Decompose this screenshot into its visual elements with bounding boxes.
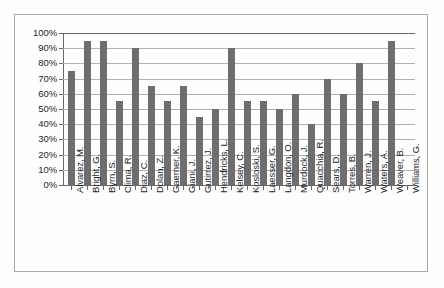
y-axis-label-10: 10%	[15, 165, 57, 175]
y-axis-label-60: 60%	[15, 89, 57, 99]
x-axis-category-label: Clima, R.	[123, 155, 133, 193]
y-axis-label-20: 20%	[15, 150, 57, 160]
x-tick	[407, 186, 408, 190]
x-tick	[279, 186, 280, 190]
x-tick	[215, 186, 216, 190]
x-axis-category-label: Sears, D.	[331, 154, 341, 193]
x-axis-category-label: Laesser, G.	[267, 146, 277, 193]
x-axis-category-label: Torres, B.	[347, 153, 357, 193]
y-axis-label-90: 90%	[15, 43, 57, 53]
x-axis-category-label: Dolan, Z.	[155, 155, 165, 193]
x-axis-category-label: Giani, J.	[187, 159, 197, 193]
x-axis-category-label: Waters, A.	[379, 151, 389, 193]
x-axis-category-label: Warren, J.	[363, 151, 373, 193]
x-tick	[359, 186, 360, 190]
x-tick	[311, 186, 312, 190]
x-tick	[327, 186, 328, 190]
y-axis-label-30: 30%	[15, 134, 57, 144]
x-axis-category-label: Gutirrez, J.	[203, 148, 213, 193]
x-tick	[151, 186, 152, 190]
x-tick	[295, 186, 296, 190]
y-axis-label-40: 40%	[15, 119, 57, 129]
x-axis-category-label: Byrn, S.	[107, 160, 117, 193]
x-tick	[135, 186, 136, 190]
x-tick	[391, 186, 392, 190]
y-axis-label-0: 0%	[15, 180, 57, 190]
x-axis-category-label: Quacchia, R.	[315, 139, 325, 193]
x-tick	[167, 186, 168, 190]
x-axis-category-label: Murdock, J.	[299, 145, 309, 193]
x-tick	[119, 186, 120, 190]
y-axis-label-80: 80%	[15, 58, 57, 68]
x-axis-category-label: Williams, G.	[411, 144, 421, 193]
x-tick	[247, 186, 248, 190]
x-tick	[103, 186, 104, 190]
x-axis-category-label: Gaerner, K.	[171, 146, 181, 193]
x-axis-category-label: Hendricks, L.	[219, 139, 229, 193]
x-tick	[71, 186, 72, 190]
x-axis-category-label: Langdon, O.	[283, 142, 293, 193]
gridline-90	[63, 48, 415, 49]
x-axis-category-label: Weaver, B.	[395, 148, 405, 193]
x-tick	[87, 186, 88, 190]
gridline-100	[63, 33, 415, 34]
x-tick	[375, 186, 376, 190]
chart-page: 0%10%20%30%40%50%60%70%80%90%100% Alvare…	[0, 0, 444, 288]
x-axis-category-label: Diaz, C.	[139, 160, 149, 193]
x-axis-category-label: Bright, G.	[91, 154, 101, 193]
x-axis-category-label: Kosloski, S.	[251, 145, 261, 193]
chart-frame: 0%10%20%30%40%50%60%70%80%90%100% Alvare…	[14, 14, 428, 272]
x-tick	[343, 186, 344, 190]
x-tick	[199, 186, 200, 190]
y-axis-label-50: 50%	[15, 104, 57, 114]
y-axis-label-70: 70%	[15, 74, 57, 84]
x-tick	[183, 186, 184, 190]
x-tick	[231, 186, 232, 190]
y-axis-label-100: 100%	[15, 28, 57, 38]
x-tick	[263, 186, 264, 190]
x-axis-category-label: Kelsey, C.	[235, 151, 245, 193]
x-axis-category-label: Alvarez, M.	[75, 147, 85, 193]
